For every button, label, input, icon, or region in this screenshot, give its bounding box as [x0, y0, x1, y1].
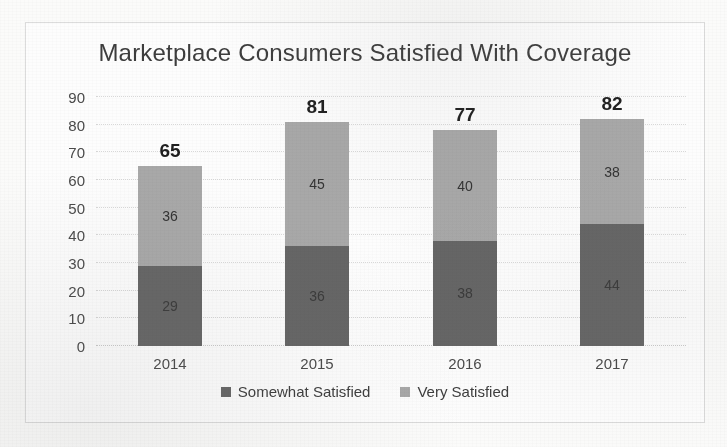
x-axis-tick-label: 2016 [417, 355, 513, 372]
legend-swatch-icon [400, 387, 410, 397]
x-axis-tick-label: 2014 [122, 355, 218, 372]
chart-title: Marketplace Consumers Satisfied With Cov… [26, 39, 704, 67]
bar-segment-very-satisfied[interactable]: 40 [433, 130, 497, 241]
bar-total-label: 77 [433, 104, 497, 126]
bar-total-label: 81 [285, 96, 349, 118]
plot-area: 0102030405060708090653629201481453620157… [96, 97, 686, 346]
legend-label: Somewhat Satisfied [238, 383, 371, 400]
bar-group[interactable]: 8238442017 [580, 119, 644, 346]
bar-segment-somewhat-satisfied[interactable]: 29 [138, 266, 202, 346]
bar-segment-value-label: 36 [285, 288, 349, 304]
x-axis-tick-label: 2017 [564, 355, 660, 372]
y-axis-tick-label: 0 [77, 338, 85, 355]
bar-segment-somewhat-satisfied[interactable]: 44 [580, 224, 644, 346]
y-axis-tick-label: 80 [68, 116, 85, 133]
bar-group[interactable]: 7740382016 [433, 130, 497, 346]
bar-segment-value-label: 36 [138, 208, 202, 224]
y-axis-tick-label: 60 [68, 172, 85, 189]
bar-segment-value-label: 38 [433, 285, 497, 301]
legend-item-somewhat-satisfied[interactable]: Somewhat Satisfied [221, 383, 371, 400]
bar-segment-value-label: 44 [580, 277, 644, 293]
bar-group[interactable]: 8145362015 [285, 122, 349, 346]
bar-total-label: 82 [580, 93, 644, 115]
legend-item-very-satisfied[interactable]: Very Satisfied [400, 383, 509, 400]
bar-segment-value-label: 45 [285, 176, 349, 192]
y-axis-tick-label: 30 [68, 255, 85, 272]
chart-frame: Marketplace Consumers Satisfied With Cov… [25, 22, 705, 423]
bar-segment-very-satisfied[interactable]: 38 [580, 119, 644, 224]
y-axis-tick-label: 50 [68, 199, 85, 216]
bar-segment-value-label: 29 [138, 298, 202, 314]
y-axis-tick-label: 90 [68, 89, 85, 106]
bar-total-label: 65 [138, 140, 202, 162]
x-axis-tick-label: 2015 [269, 355, 365, 372]
bar-segment-somewhat-satisfied[interactable]: 36 [285, 246, 349, 346]
legend-swatch-icon [221, 387, 231, 397]
y-axis-tick-label: 20 [68, 282, 85, 299]
y-axis-tick-label: 10 [68, 310, 85, 327]
bar-group[interactable]: 6536292014 [138, 166, 202, 346]
legend-label: Very Satisfied [417, 383, 509, 400]
bar-segment-very-satisfied[interactable]: 45 [285, 122, 349, 247]
bar-segment-somewhat-satisfied[interactable]: 38 [433, 241, 497, 346]
y-axis-tick-label: 40 [68, 227, 85, 244]
y-axis-tick-label: 70 [68, 144, 85, 161]
chart-legend: Somewhat Satisfied Very Satisfied [26, 383, 704, 400]
bar-segment-value-label: 40 [433, 178, 497, 194]
bar-segment-value-label: 38 [580, 164, 644, 180]
bar-segment-very-satisfied[interactable]: 36 [138, 166, 202, 266]
